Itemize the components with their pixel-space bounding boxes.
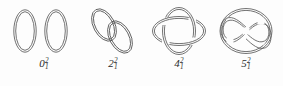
unlink-label-base: 0 <box>39 57 45 69</box>
torus-vertical-outer <box>163 8 196 55</box>
whitehead-link-label: 5 2 1 <box>211 58 281 72</box>
hopf-link-label: 2 2 1 <box>78 58 148 72</box>
hopf-component-2-inner <box>105 19 135 55</box>
torus-vertical-inner <box>164 9 193 52</box>
hopf-link-label-scripts: 2 1 <box>114 58 118 72</box>
torus-link-2-4-label: 4 2 1 <box>145 58 213 72</box>
hopf-link-component-2 <box>102 17 137 58</box>
torus-link-2-4-label-base: 4 <box>174 57 180 69</box>
hopf-link-label-base: 2 <box>108 57 114 69</box>
unlink-label-scripts: 2 1 <box>45 58 49 72</box>
whitehead-link-svg <box>211 4 281 58</box>
torus-horizontal-outer <box>153 17 206 46</box>
torus-horizontal-inner <box>154 18 203 43</box>
link-panel-whitehead-link: 5 2 1 <box>211 0 281 86</box>
torus-link-2-4-label-scripts: 2 1 <box>180 58 184 72</box>
link-panel-hopf-link: 2 2 1 <box>78 0 148 86</box>
whitehead-link-label-subscript: 1 <box>247 64 251 71</box>
unlink-component-1-inner <box>16 12 35 51</box>
torus-link-component-vertical <box>163 8 196 55</box>
torus-link-2-4-svg <box>145 4 213 58</box>
hopf-component-2-outer <box>102 17 137 58</box>
hopf-link-diagram <box>78 4 148 58</box>
link-table-figure: 0 2 1 <box>0 0 283 86</box>
link-panel-unlink: 0 2 1 <box>4 0 84 86</box>
unlink-component-2-inner <box>47 12 66 51</box>
whitehead-link-diagram <box>211 4 281 58</box>
unlink-label: 0 2 1 <box>4 58 84 72</box>
unlink-label-subscript: 1 <box>45 64 49 71</box>
unlink-diagram <box>4 4 84 58</box>
hopf-link-svg <box>78 4 148 58</box>
unlink-components <box>14 10 67 52</box>
torus-link-component-horizontal <box>153 17 206 46</box>
torus-link-2-4-diagram <box>145 4 213 58</box>
unlink-svg <box>4 4 84 58</box>
torus-link-2-4-label-subscript: 1 <box>180 64 184 71</box>
hopf-link-label-subscript: 1 <box>114 64 118 71</box>
unlink-component-2-outer <box>45 10 67 52</box>
link-panel-torus-link-2-4: 4 2 1 <box>145 0 213 86</box>
unlink-component-1-outer <box>14 10 36 52</box>
hopf-component-1-outer <box>86 5 121 46</box>
whitehead-component-figure-eight <box>221 18 271 49</box>
whitehead-link-label-base: 5 <box>241 57 247 69</box>
whitehead-link-label-scripts: 2 1 <box>247 58 251 72</box>
hopf-component-1-inner <box>89 7 119 43</box>
hopf-link-component-1 <box>86 5 121 46</box>
